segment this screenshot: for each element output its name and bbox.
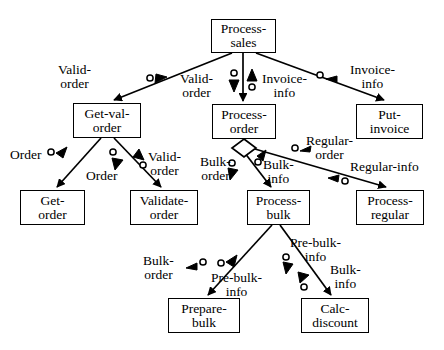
node-line: Process- xyxy=(367,194,413,208)
flow-label-order-center: Order xyxy=(86,169,117,183)
node-line: Put- xyxy=(378,108,401,122)
flow-label-line: Bulk- xyxy=(143,254,174,268)
node-line: Process- xyxy=(221,108,267,122)
node-line: sales xyxy=(230,36,256,50)
node-line: Validate- xyxy=(140,194,189,208)
flow-label-line: info xyxy=(263,172,294,186)
node-put-invoice[interactable]: Put- invoice xyxy=(356,104,423,139)
flow-label-bulk-order-mid: Bulk- order xyxy=(200,155,231,183)
flow-label-line: Bulk- xyxy=(263,158,294,172)
flow-label-bulk-info-mid: Bulk- info xyxy=(263,158,294,186)
node-prepare-bulk[interactable]: Prepare- bulk xyxy=(168,298,240,333)
node-line: Process- xyxy=(221,22,267,36)
flow-label-line: Valid- xyxy=(148,150,181,164)
flow-label-line: order xyxy=(143,268,174,282)
node-process-bulk[interactable]: Process- bulk xyxy=(247,190,310,225)
node-line: order xyxy=(93,121,121,135)
flow-label-line: order xyxy=(58,77,91,91)
flow-label-line: info xyxy=(211,285,262,299)
flow-label-line: Bulk- xyxy=(330,263,361,277)
flow-label-line: Pre-bulk- xyxy=(211,271,262,285)
flow-label-line: Regular- xyxy=(306,134,353,148)
flow-label-line: order xyxy=(200,169,231,183)
flow-label-line: Order xyxy=(86,169,117,183)
flow-label-order-left: Order xyxy=(10,148,41,162)
flow-label-line: info xyxy=(262,86,307,100)
node-line: bulk xyxy=(192,316,216,330)
marker-regular-info xyxy=(328,175,348,184)
flow-label-line: Pre-bulk- xyxy=(290,236,341,250)
marker-invoice-info-right xyxy=(317,72,337,82)
flow-label-line: Invoice- xyxy=(350,63,395,77)
flow-label-line: Regular-info xyxy=(350,160,419,174)
flow-label-pre-bulk-info-up: Pre-bulk- info xyxy=(290,236,341,264)
node-line: order xyxy=(230,122,258,136)
node-line: Process- xyxy=(256,194,302,208)
flow-label-invoice-info-right: Invoice- info xyxy=(350,63,395,91)
marker-valid-order-left xyxy=(147,74,167,83)
flow-label-line: Bulk- xyxy=(200,155,231,169)
marker-pre-bulk-info-low xyxy=(218,255,237,267)
node-get-order[interactable]: Get- order xyxy=(20,190,85,225)
marker-order-down xyxy=(48,147,67,158)
flow-label-invoice-info-center: Invoice- info xyxy=(262,72,307,100)
flow-label-valid-order-lower: Valid- order xyxy=(148,150,181,178)
flow-label-bulk-info-low: Bulk- info xyxy=(330,263,361,291)
node-line: Get- xyxy=(41,194,65,208)
node-line: Calc- xyxy=(320,302,349,316)
flow-label-regular-order: Regular- order xyxy=(306,134,353,162)
node-line: Get-val- xyxy=(85,107,130,121)
flow-label-regular-info: Regular-info xyxy=(350,160,419,174)
node-line: invoice xyxy=(370,122,410,136)
flow-label-line: Valid- xyxy=(180,72,213,86)
node-line: regular xyxy=(371,208,409,222)
decision-diamond-process-order xyxy=(232,139,256,157)
edge-sales-to-getval xyxy=(114,53,232,100)
flow-label-line: Valid- xyxy=(58,63,91,77)
flow-label-line: order xyxy=(180,86,213,100)
node-get-val-order[interactable]: Get-val- order xyxy=(73,103,141,138)
structure-chart-diagram: Process- sales Get-val- order Process- o… xyxy=(0,0,444,350)
node-line: order xyxy=(150,208,178,222)
marker-invoice-info-up xyxy=(247,69,257,90)
flow-label-line: order xyxy=(306,148,353,162)
node-line: order xyxy=(38,208,66,222)
node-line: discount xyxy=(312,316,358,330)
marker-valid-order-down xyxy=(229,70,239,92)
flow-label-valid-order-left: Valid- order xyxy=(58,63,91,91)
flow-label-line: info xyxy=(330,277,361,291)
flow-label-line: Invoice- xyxy=(262,72,307,86)
flow-label-line: order xyxy=(148,164,181,178)
node-calc-discount[interactable]: Calc- discount xyxy=(301,298,369,333)
node-process-regular[interactable]: Process- regular xyxy=(356,190,424,225)
marker-valid-order-return xyxy=(133,149,146,168)
flow-label-line: Order xyxy=(10,148,41,162)
node-process-order[interactable]: Process- order xyxy=(212,104,276,139)
flow-label-valid-order-center: Valid- order xyxy=(180,72,213,100)
marker-bulk-info-low xyxy=(298,272,309,290)
node-process-sales[interactable]: Process- sales xyxy=(211,19,276,53)
flow-label-bulk-order-low: Bulk- order xyxy=(143,254,174,282)
node-line: bulk xyxy=(266,208,290,222)
marker-bulk-order-low xyxy=(186,259,206,270)
flow-label-line: info xyxy=(350,77,395,91)
node-validate-order[interactable]: Validate- order xyxy=(130,190,198,225)
marker-order-return xyxy=(110,149,123,170)
node-line: Prepare- xyxy=(181,302,227,316)
flow-label-pre-bulk-info-low: Pre-bulk- info xyxy=(211,271,262,299)
